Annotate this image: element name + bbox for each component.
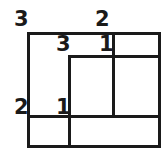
label-inner-bottom: 1 — [56, 97, 71, 118]
label-inner-top: 3 — [56, 34, 71, 55]
outer-rect-right-edge — [158, 32, 161, 148]
outer-rect-top-edge — [27, 32, 161, 35]
outer-rect-left-edge — [27, 32, 30, 148]
outer-rect-bottom-edge — [27, 145, 161, 148]
label-outer-top: 2 — [95, 9, 110, 30]
label-outer-top-left: 3 — [14, 9, 29, 30]
label-outer-left: 2 — [14, 97, 29, 118]
label-inner-right: 1 — [99, 34, 114, 55]
interior-horizontal-lower-segment — [27, 115, 161, 118]
rectangle-dissection-figure: 3 2 2 3 1 1 — [0, 0, 168, 158]
